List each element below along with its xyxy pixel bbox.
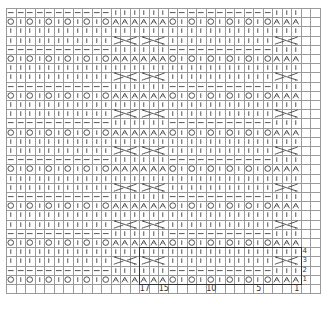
- purl-stitch-icon: [253, 155, 263, 164]
- knit-stitch-icon: [92, 63, 102, 72]
- knit-stitch-icon: [272, 229, 282, 238]
- knit-stitch-icon: [111, 247, 121, 256]
- knit-stitch-icon: [54, 256, 64, 265]
- decrease-stitch-icon: [130, 164, 140, 173]
- knit-stitch-icon: [92, 238, 102, 247]
- knit-stitch-icon: [149, 192, 159, 201]
- yarn-over-icon: [225, 54, 235, 63]
- purl-stitch-icon: [225, 118, 235, 127]
- cable-cross-icon: [272, 36, 301, 45]
- knit-stitch-icon: [111, 174, 121, 183]
- knit-stitch-icon: [120, 82, 130, 91]
- knit-stitch-icon: [206, 183, 216, 192]
- knit-stitch-icon: [168, 63, 178, 72]
- knit-stitch-icon: [82, 220, 92, 229]
- knit-stitch-icon: [234, 17, 244, 26]
- knit-stitch-icon: [234, 26, 244, 35]
- yarn-over-icon: [225, 238, 235, 247]
- knit-stitch-icon: [139, 174, 149, 183]
- knit-stitch-icon: [73, 210, 83, 219]
- purl-stitch-icon: [6, 192, 16, 201]
- knit-stitch-icon: [73, 63, 83, 72]
- knit-stitch-icon: [149, 63, 159, 72]
- purl-stitch-icon: [6, 229, 16, 238]
- knit-stitch-icon: [282, 26, 292, 35]
- knit-stitch-icon: [177, 128, 187, 137]
- knit-stitch-icon: [6, 247, 16, 256]
- knit-stitch-icon: [16, 183, 26, 192]
- purl-stitch-icon: [92, 82, 102, 91]
- knit-stitch-icon: [54, 72, 64, 81]
- knit-stitch-icon: [234, 91, 244, 100]
- knit-stitch-icon: [168, 36, 178, 45]
- decrease-stitch-icon: [291, 91, 301, 100]
- yarn-over-icon: [168, 275, 178, 284]
- decrease-stitch-icon: [158, 54, 168, 63]
- purl-stitch-icon: [92, 155, 102, 164]
- purl-stitch-icon: [44, 118, 54, 127]
- yarn-over-icon: [63, 128, 73, 137]
- knit-stitch-icon: [177, 109, 187, 118]
- decrease-stitch-icon: [282, 201, 292, 210]
- knit-stitch-icon: [73, 183, 83, 192]
- decrease-stitch-icon: [291, 164, 301, 173]
- knit-stitch-icon: [16, 137, 26, 146]
- purl-stitch-icon: [63, 8, 73, 17]
- knit-stitch-icon: [139, 229, 149, 238]
- purl-stitch-icon: [253, 8, 263, 17]
- yarn-over-icon: [263, 201, 273, 210]
- yarn-over-icon: [25, 164, 35, 173]
- knit-stitch-icon: [234, 275, 244, 284]
- knit-stitch-icon: [130, 8, 140, 17]
- knit-stitch-icon: [54, 17, 64, 26]
- purl-stitch-icon: [54, 155, 64, 164]
- decrease-stitch-icon: [282, 128, 292, 137]
- knit-stitch-icon: [25, 72, 35, 81]
- knit-stitch-icon: [187, 63, 197, 72]
- purl-stitch-icon: [35, 118, 45, 127]
- yarn-over-icon: [82, 238, 92, 247]
- knit-stitch-icon: [177, 63, 187, 72]
- knit-stitch-icon: [263, 210, 273, 219]
- purl-stitch-icon: [25, 118, 35, 127]
- knit-stitch-icon: [225, 63, 235, 72]
- knit-stitch-icon: [168, 256, 178, 265]
- knit-stitch-icon: [82, 174, 92, 183]
- knit-stitch-icon: [291, 266, 301, 275]
- yarn-over-icon: [6, 275, 16, 284]
- knit-stitch-icon: [92, 137, 102, 146]
- knit-stitch-icon: [16, 100, 26, 109]
- purl-stitch-icon: [253, 118, 263, 127]
- knit-stitch-icon: [82, 183, 92, 192]
- knit-stitch-icon: [215, 174, 225, 183]
- knit-stitch-icon: [158, 118, 168, 127]
- yarn-over-icon: [244, 128, 254, 137]
- knit-stitch-icon: [225, 183, 235, 192]
- purl-stitch-icon: [187, 229, 197, 238]
- knit-stitch-icon: [291, 82, 301, 91]
- knit-stitch-icon: [291, 192, 301, 201]
- purl-stitch-icon: [187, 118, 197, 127]
- knit-stitch-icon: [234, 63, 244, 72]
- purl-stitch-icon: [73, 8, 83, 17]
- purl-stitch-icon: [263, 155, 273, 164]
- purl-stitch-icon: [54, 8, 64, 17]
- knit-stitch-icon: [158, 100, 168, 109]
- knit-stitch-icon: [73, 17, 83, 26]
- purl-stitch-icon: [16, 118, 26, 127]
- knit-stitch-icon: [187, 256, 197, 265]
- purl-stitch-icon: [16, 8, 26, 17]
- knit-stitch-icon: [111, 45, 121, 54]
- knit-stitch-icon: [149, 229, 159, 238]
- decrease-stitch-icon: [130, 128, 140, 137]
- knit-stitch-icon: [92, 183, 102, 192]
- knit-stitch-icon: [263, 72, 273, 81]
- purl-stitch-icon: [16, 45, 26, 54]
- purl-stitch-icon: [215, 82, 225, 91]
- purl-stitch-icon: [244, 229, 254, 238]
- decrease-stitch-icon: [139, 201, 149, 210]
- knit-stitch-icon: [272, 82, 282, 91]
- knit-stitch-icon: [82, 26, 92, 35]
- knit-stitch-icon: [253, 36, 263, 45]
- decrease-stitch-icon: [139, 238, 149, 247]
